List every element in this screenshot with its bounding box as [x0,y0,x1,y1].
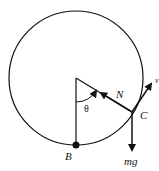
velocity-arrow [132,84,151,112]
point-b-dot [73,142,80,149]
label-mg: mg [124,155,138,167]
physics-diagram: N C B mg θ v [0,0,159,171]
angle-arc [76,91,96,102]
label-n: N [115,88,124,100]
label-c: C [140,109,148,121]
label-b: B [65,150,72,162]
label-v: v [155,76,159,85]
label-theta: θ [84,103,89,114]
